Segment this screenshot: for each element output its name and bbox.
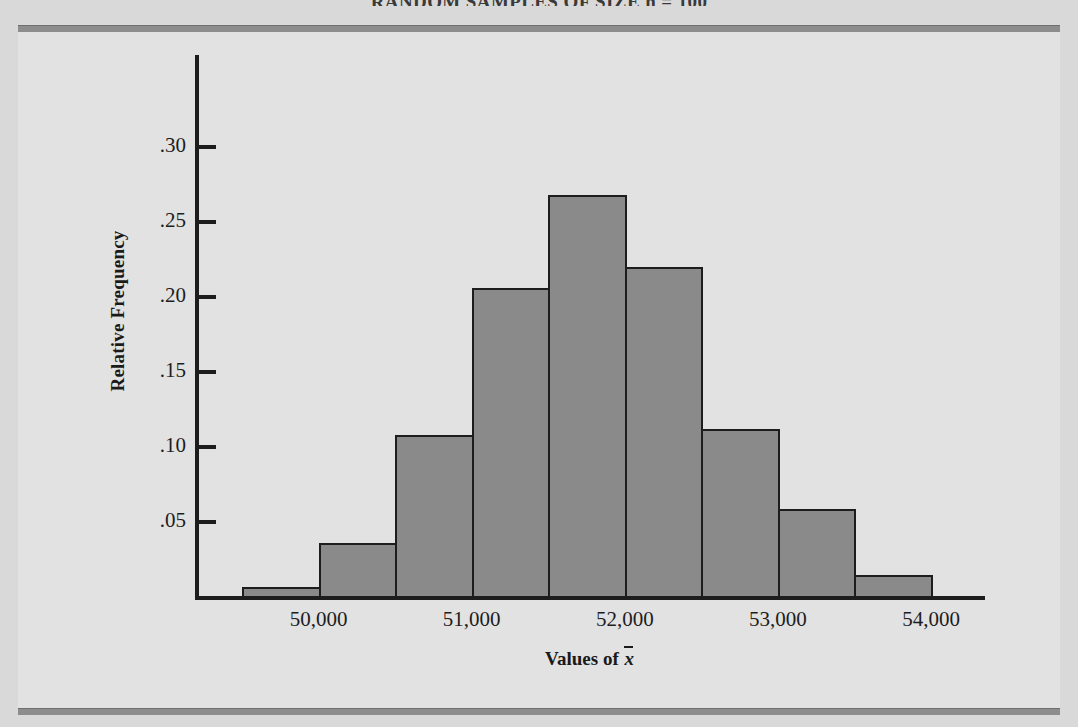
- x-axis-title: Values of x: [195, 648, 985, 670]
- x-axis-tick-label: 50,000: [259, 607, 379, 632]
- x-axis-tick-label: 52,000: [565, 607, 685, 632]
- x-axis-title-text: Values of: [545, 648, 623, 669]
- histogram-bar: [854, 575, 933, 599]
- histogram-bar: [395, 435, 474, 598]
- histogram-bar: [778, 509, 857, 599]
- histogram-bar: [319, 543, 398, 598]
- x-axis-tick-label: 53,000: [718, 607, 838, 632]
- histogram-bar: [625, 267, 704, 598]
- histogram-bar: [548, 195, 627, 598]
- x-bar-symbol: x: [623, 648, 635, 669]
- histogram-bar: [701, 429, 780, 598]
- histogram-bar: [472, 288, 551, 598]
- histogram-figure: Relative Frequency .05.10.15.20.25.30 50…: [0, 0, 1078, 727]
- histogram-bar: [242, 587, 321, 599]
- x-axis-tick-label: 54,000: [871, 607, 991, 632]
- x-axis-tick-label: 51,000: [412, 607, 532, 632]
